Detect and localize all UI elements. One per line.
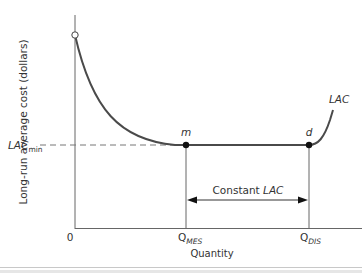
constant-lac-label: Constant LAC bbox=[213, 184, 285, 196]
qdis-label: QDIS bbox=[300, 231, 321, 246]
arrowhead-left-icon bbox=[187, 197, 197, 204]
lac-curve-label: LAC bbox=[329, 93, 350, 105]
y-axis-label: Long-run average cost (dollars) bbox=[17, 40, 29, 205]
origin-label: 0 bbox=[67, 231, 74, 243]
bottom-rule bbox=[0, 267, 362, 268]
point-m-dot bbox=[183, 142, 189, 148]
constant-lac-italic: LAC bbox=[263, 184, 284, 196]
lac-chart: Long-run average cost (dollars) LACmin m… bbox=[0, 0, 362, 273]
point-d-dot bbox=[306, 142, 312, 148]
lacmin-sub: min bbox=[28, 145, 42, 154]
lacmin-main: LAC bbox=[8, 139, 29, 151]
x-axis-label: Quantity bbox=[190, 248, 233, 259]
y-intercept-open-circle bbox=[72, 32, 78, 38]
qmes-label: QMES bbox=[178, 231, 202, 246]
qdis-main: Q bbox=[300, 231, 308, 243]
lac-curve bbox=[75, 35, 333, 145]
point-d-label: d bbox=[306, 126, 313, 138]
constant-lac-prefix: Constant bbox=[213, 184, 264, 196]
qdis-sub: DIS bbox=[308, 237, 321, 246]
qmes-sub: MES bbox=[186, 237, 202, 246]
qmes-main: Q bbox=[178, 231, 186, 243]
point-m-label: m bbox=[181, 126, 191, 138]
arrowhead-right-icon bbox=[298, 197, 308, 204]
